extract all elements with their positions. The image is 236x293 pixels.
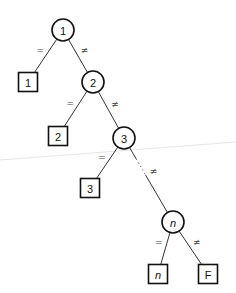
- outcome-node-s3: 3: [81, 179, 100, 198]
- not-equal-label: ≠: [150, 166, 158, 176]
- decision-node-c1: 1: [52, 19, 74, 41]
- decision-node-cn: n: [162, 211, 184, 233]
- node-label: n: [170, 217, 176, 229]
- node-label: 2: [90, 77, 96, 89]
- node-label: F: [205, 269, 212, 281]
- equal-label: =: [155, 237, 163, 247]
- edge-c3-cn-segment-b: [145, 175, 167, 213]
- decision-tree-diagram: =≠=≠=≠=≠ 112233nnF: [0, 0, 236, 293]
- outcome-node-sF: F: [199, 265, 218, 284]
- decision-node-c3: 3: [113, 127, 135, 149]
- node-label: 1: [60, 25, 66, 37]
- outcome-node-s1: 1: [19, 73, 38, 92]
- node-label: 1: [25, 77, 31, 89]
- edge-c2-c3: [98, 92, 118, 129]
- node-label: n: [155, 269, 161, 281]
- edge-c3-cn-ellipsis: [136, 159, 145, 175]
- equal-label: =: [98, 152, 106, 162]
- node-label: 2: [55, 131, 61, 143]
- equal-label: =: [67, 98, 75, 108]
- not-equal-label: ≠: [111, 99, 119, 109]
- not-equal-label: ≠: [193, 237, 201, 247]
- node-label: 3: [121, 133, 127, 145]
- decision-node-c2: 2: [82, 71, 104, 93]
- node-label: 3: [87, 183, 93, 195]
- outcome-node-s2: 2: [49, 127, 68, 146]
- outcome-node-sn: n: [149, 265, 168, 284]
- edge-c2-s2: [64, 91, 87, 126]
- equal-label: =: [37, 45, 45, 55]
- not-equal-label: ≠: [81, 45, 89, 55]
